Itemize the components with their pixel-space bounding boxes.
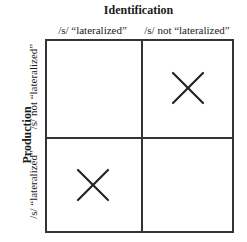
row-label-lateralized: /s/ “lateralized”	[27, 139, 40, 231]
x-mark-icon-top-right	[170, 70, 206, 106]
vertical-divider	[141, 41, 143, 231]
column-label-lateralized: /s/ “lateralized”	[45, 24, 140, 36]
x-mark-icon-bottom-left	[75, 167, 111, 203]
column-label-not-lateralized: /s/ not “lateralized”	[140, 24, 234, 36]
horizontal-divider	[47, 137, 232, 139]
identification-title: Identification	[0, 3, 247, 18]
matrix-grid	[45, 39, 234, 233]
row-label-not-lateralized: /s/ not “lateralized”	[27, 37, 40, 137]
